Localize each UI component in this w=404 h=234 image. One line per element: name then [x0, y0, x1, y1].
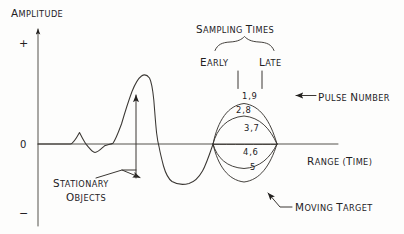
stationary-objects-leader: [96, 170, 136, 178]
late-gate-label: LATE: [259, 57, 282, 68]
mti-radar-diagram: AMPLITUDE + − 0 SAMPLING TIMES EARLY LAT…: [0, 0, 404, 234]
pulse-label-1-9: 1,9: [242, 92, 258, 101]
y-axis-negative-sign: −: [19, 208, 29, 220]
pulse-label-4-6: 4,6: [243, 148, 259, 157]
x-axis-label: RANGE (TIME): [307, 156, 372, 167]
early-gate-label: EARLY: [200, 57, 228, 68]
pulse-number-callout: PULSE NUMBER: [318, 92, 390, 103]
return-waveform: [38, 75, 213, 184]
zero-tick-label: 0: [20, 140, 27, 151]
pulse-label-3-7: 3,7: [244, 124, 260, 133]
pulse-label-5: 5: [250, 163, 256, 172]
sampling-times-label: SAMPLING TIMES: [196, 24, 274, 35]
stationary-objects-callout-line2: OBJECTS: [66, 192, 106, 203]
pulse-label-2-8: 2,8: [236, 106, 252, 115]
y-axis-positive-sign: +: [19, 38, 29, 50]
y-axis-label: AMPLITUDE: [11, 8, 63, 19]
moving-target-leader: [268, 193, 292, 207]
diagram-linework: [0, 0, 404, 234]
stationary-objects-callout-line1: STATIONARY: [53, 178, 109, 189]
moving-target-callout: MOVING TARGET: [295, 202, 373, 213]
sampling-times-brace: [215, 37, 274, 51]
stationary-objects-leader-arrow: [122, 170, 140, 178]
